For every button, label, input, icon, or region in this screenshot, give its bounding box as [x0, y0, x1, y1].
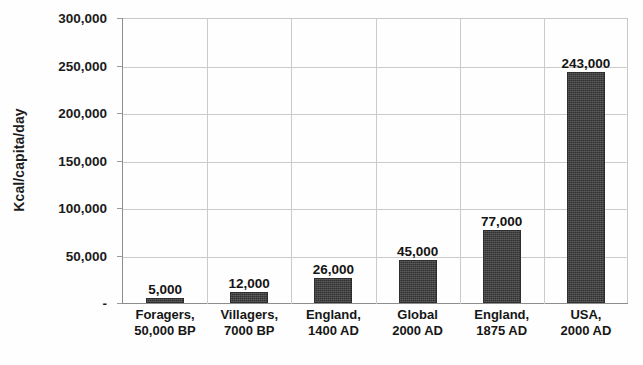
bars-layer: 5,00012,00026,00045,00077,000243,000 [123, 18, 628, 303]
bar-group: 45,000 [376, 18, 460, 303]
y-tick-label: 100,000 [17, 201, 107, 216]
bar-value-label: 77,000 [481, 214, 522, 229]
category-label-line2: 7000 BP [207, 323, 291, 339]
x-axis-categories: Foragers,50,000 BPVillagers,7000 BPEngla… [123, 307, 628, 357]
y-tick-label: 150,000 [17, 153, 107, 168]
bar-value-label: 45,000 [397, 244, 438, 259]
y-tick-label: 300,000 [17, 11, 107, 26]
bar-value-label: 243,000 [562, 56, 611, 71]
category-label-line1: Global [376, 307, 460, 323]
bar[interactable]: 45,000 [399, 260, 437, 303]
bar[interactable]: 26,000 [314, 278, 352, 303]
category-label-line1: USA, [544, 307, 628, 323]
bar-group: 5,000 [123, 18, 207, 303]
category-label-line2: 50,000 BP [123, 323, 207, 339]
bar-group: 243,000 [544, 18, 628, 303]
bar-value-label: 12,000 [229, 276, 270, 291]
bar[interactable]: 12,000 [230, 292, 268, 303]
bar-group: 26,000 [291, 18, 375, 303]
bar-group: 77,000 [460, 18, 544, 303]
x-axis-category-label: Global2000 AD [376, 307, 460, 339]
x-axis-category-label: Foragers,50,000 BP [123, 307, 207, 339]
bar[interactable]: 243,000 [567, 72, 605, 303]
bar[interactable]: 77,000 [483, 230, 521, 303]
y-tick-label: - [17, 296, 107, 311]
category-label-line2: 2000 AD [544, 323, 628, 339]
y-tick-label: 50,000 [17, 248, 107, 263]
bar-chart: Kcal/capita/day 300,000250,000200,000150… [0, 0, 643, 365]
category-label-line2: 1400 AD [291, 323, 375, 339]
x-axis-category-label: USA,2000 AD [544, 307, 628, 339]
x-axis-category-label: Villagers,7000 BP [207, 307, 291, 339]
bar-value-label: 5,000 [148, 282, 182, 297]
category-label-line2: 2000 AD [376, 323, 460, 339]
category-label-line1: Villagers, [207, 307, 291, 323]
category-label-line1: Foragers, [123, 307, 207, 323]
bar[interactable]: 5,000 [146, 298, 184, 303]
category-label-line1: England, [460, 307, 544, 323]
x-axis-category-label: England,1875 AD [460, 307, 544, 339]
y-tick-label: 250,000 [17, 58, 107, 73]
x-axis-category-label: England,1400 AD [291, 307, 375, 339]
category-label-line2: 1875 AD [460, 323, 544, 339]
category-label-line1: England, [291, 307, 375, 323]
y-tick-label: 200,000 [17, 106, 107, 121]
bar-group: 12,000 [207, 18, 291, 303]
bar-value-label: 26,000 [313, 262, 354, 277]
